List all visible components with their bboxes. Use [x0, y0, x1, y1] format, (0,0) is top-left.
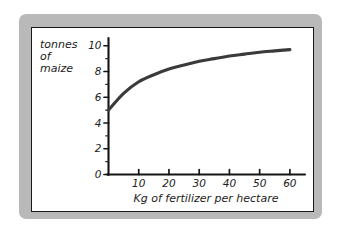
chart-plot-area: 0246810 102030405060 tonnes of maize Kg … [0, 0, 342, 236]
x-axis-tick-labels: 102030405060 [132, 177, 297, 189]
x-tick-label-60: 60 [283, 177, 297, 189]
figure-root: 0246810 102030405060 tonnes of maize Kg … [0, 0, 342, 236]
y-axis-title-line-3: maize [40, 62, 73, 75]
x-tick-label-10: 10 [132, 177, 146, 189]
y-tick-label-6: 6 [95, 91, 102, 103]
y-tick-label-4: 4 [95, 117, 102, 129]
x-tick-label-30: 30 [193, 177, 207, 189]
y-axis-tick-labels: 0246810 [88, 39, 102, 180]
y-tick-label-2: 2 [95, 142, 102, 154]
x-axis-title: Kg of fertilizer per hectare [134, 192, 279, 205]
x-tick-label-40: 40 [223, 177, 237, 189]
y-tick-label-10: 10 [88, 39, 102, 51]
x-tick-label-20: 20 [162, 177, 176, 189]
data-curve-maize-yield [109, 50, 290, 111]
x-tick-label-50: 50 [253, 177, 267, 189]
y-tick-label-8: 8 [95, 65, 102, 77]
y-tick-label-0: 0 [95, 168, 102, 180]
